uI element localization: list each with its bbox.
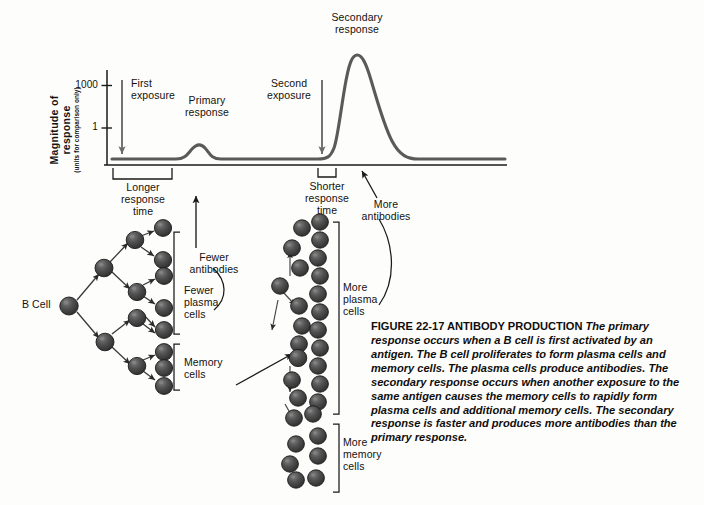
cell xyxy=(310,448,327,464)
more-memory-cells-bracket xyxy=(333,424,339,492)
cell xyxy=(308,470,325,486)
cell xyxy=(128,309,146,326)
cell xyxy=(155,300,172,317)
figure-number: FIGURE 22-17 xyxy=(371,320,444,332)
cell xyxy=(288,472,305,488)
cell xyxy=(288,436,305,452)
longer-response-time-bracket xyxy=(113,168,172,179)
figure-caption-body: The primary response occurs when a B cel… xyxy=(371,320,679,443)
antibody-production-figure: Magnitude of response (units for compari… xyxy=(0,0,704,505)
cell xyxy=(96,333,114,351)
more-plasma-cells-label: More plasma cells xyxy=(343,282,377,317)
more-antibodies-connector xyxy=(379,219,391,305)
memory-cells-bracket xyxy=(174,344,180,390)
cell xyxy=(310,286,327,302)
cell xyxy=(155,344,172,361)
cell xyxy=(294,220,311,236)
cell xyxy=(305,406,322,422)
shorter-response-time-label: Shorter response time xyxy=(297,181,357,216)
cell xyxy=(310,358,327,374)
cell xyxy=(155,360,172,377)
primary-cell-lineage xyxy=(60,220,173,395)
cell xyxy=(126,231,144,248)
cell xyxy=(310,322,327,338)
primary-response-label: Primary response xyxy=(172,95,242,119)
cell xyxy=(294,318,311,334)
cell xyxy=(312,214,329,230)
cell xyxy=(290,390,307,406)
second-exposure-label: Second exposure xyxy=(258,78,320,102)
fewer-antibodies-label: Fewer antibodies xyxy=(183,252,245,276)
more-antibodies-label: More antibodies xyxy=(355,199,417,223)
first-exposure-label: First exposure xyxy=(131,78,175,102)
cell xyxy=(128,357,146,374)
secondary-cell-cluster xyxy=(272,214,329,488)
cell xyxy=(291,298,308,314)
y-tick-label-1: 1 xyxy=(60,121,98,132)
response-curve xyxy=(112,55,505,159)
cell xyxy=(155,322,172,339)
cell xyxy=(284,240,301,256)
secondary-response-label: Secondary response xyxy=(318,12,396,36)
figure-title: ANTIBODY PRODUCTION xyxy=(447,320,582,332)
memory-cells-label: Memory cells xyxy=(184,357,223,381)
cell xyxy=(154,252,171,269)
cell xyxy=(95,259,113,277)
longer-response-time-label: Longer response time xyxy=(112,182,174,217)
cell xyxy=(312,232,329,248)
fewer-plasma-cells-label: Fewer plasma cells xyxy=(184,285,218,320)
b-cell-label: B Cell xyxy=(22,299,51,311)
cell xyxy=(128,283,146,300)
more-antibodies-arrow xyxy=(362,171,377,198)
cell xyxy=(154,220,171,237)
shorter-response-time-bracket xyxy=(318,168,336,177)
cell xyxy=(286,410,303,426)
y-tick-label-1000: 1000 xyxy=(60,79,98,90)
cell xyxy=(310,250,327,266)
fewer-plasma-cells-bracket xyxy=(174,232,180,334)
cell xyxy=(312,340,329,356)
figure-caption: FIGURE 22-17 ANTIBODY PRODUCTION The pri… xyxy=(371,320,693,445)
cell xyxy=(282,456,299,472)
b-cell xyxy=(60,297,78,315)
activated-memory-cell xyxy=(289,349,307,366)
cell xyxy=(310,428,327,444)
cell xyxy=(292,260,309,276)
cell xyxy=(284,372,301,388)
cell xyxy=(312,376,329,392)
more-plasma-cells-bracket xyxy=(333,222,339,414)
cell xyxy=(272,278,289,294)
cell xyxy=(155,378,172,395)
cell xyxy=(155,268,172,285)
cell xyxy=(312,304,329,320)
cell xyxy=(312,268,329,284)
